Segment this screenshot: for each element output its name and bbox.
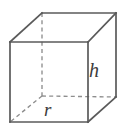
- radius-label: r: [44, 100, 51, 119]
- height-label: h: [89, 60, 99, 80]
- rectangular-prism-figure: h r: [0, 0, 128, 136]
- cube-diagram-svg: [0, 0, 128, 136]
